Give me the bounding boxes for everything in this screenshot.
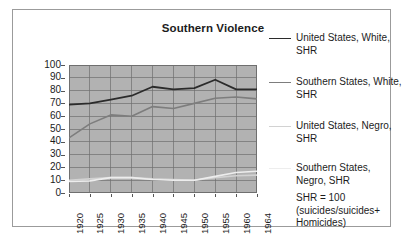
y-tick-label: 30 xyxy=(33,149,61,159)
y-tick-label: 50 xyxy=(33,124,61,134)
y-tick-mark xyxy=(61,116,65,117)
y-tick-mark xyxy=(61,91,65,92)
legend-note-line: (suicides/suicides+ xyxy=(296,205,405,218)
x-tick-label: 1935 xyxy=(136,213,147,234)
chart-title: Southern Violence xyxy=(143,22,283,34)
y-tick-label: 10 xyxy=(33,175,61,185)
y-tick-mark xyxy=(61,193,65,194)
x-tick-mark xyxy=(194,194,195,197)
series-lines xyxy=(69,65,257,193)
y-tick-label: 40 xyxy=(33,136,61,146)
x-tick-label: 1955 xyxy=(220,213,231,234)
y-tick-mark xyxy=(61,142,65,143)
y-axis: 0102030405060708090100 xyxy=(31,58,65,200)
x-tick-label: 1950 xyxy=(199,213,210,234)
y-tick-mark xyxy=(61,155,65,156)
legend-note-line: Homicides) xyxy=(296,217,405,230)
y-tick-label: 20 xyxy=(33,162,61,172)
legend-label: Southern States, White, SHR xyxy=(296,76,403,101)
x-tick-mark xyxy=(90,194,91,197)
y-tick-label: 90 xyxy=(33,72,61,82)
y-tick-mark xyxy=(61,65,65,66)
x-tick-label: 1945 xyxy=(178,213,189,234)
x-tick-label: 1960 xyxy=(241,213,252,234)
x-tick-mark xyxy=(173,194,174,197)
x-tick-label: 1940 xyxy=(157,213,168,234)
x-tick-mark xyxy=(153,194,154,197)
legend-label: Southern States, Negro, SHR xyxy=(296,162,403,187)
y-tick-label: 80 xyxy=(33,85,61,95)
y-tick-label: 0 xyxy=(33,188,61,198)
legend-note: SHR = 100(suicides/suicides+Homicides) xyxy=(296,192,405,230)
plot-area xyxy=(69,65,257,193)
x-tick-mark xyxy=(132,194,133,197)
x-tick-mark xyxy=(257,194,258,197)
y-tick-mark xyxy=(61,167,65,168)
y-tick-mark xyxy=(61,78,65,79)
x-tick-label: 1930 xyxy=(115,213,126,234)
y-tick-label: 60 xyxy=(33,111,61,121)
x-tick-mark xyxy=(215,194,216,197)
chart-frame: Southern Violence 0102030405060708090100… xyxy=(12,9,391,227)
legend-swatch xyxy=(269,126,291,127)
y-tick-mark xyxy=(61,103,65,104)
x-tick-label: 1925 xyxy=(94,213,105,234)
series-line-0 xyxy=(69,80,257,105)
legend-swatch xyxy=(269,168,291,169)
x-tick-mark xyxy=(111,194,112,197)
legend-note-line: SHR = 100 xyxy=(296,192,405,205)
y-tick-mark xyxy=(61,129,65,130)
y-tick-label: 70 xyxy=(33,98,61,108)
series-line-1 xyxy=(69,97,257,138)
y-tick-label: 100 xyxy=(33,60,61,70)
legend-label: United States, Negro, SHR xyxy=(296,120,403,145)
x-axis: 1920192519301935194019451950195519601964 xyxy=(69,194,257,240)
x-tick-label: 1920 xyxy=(74,213,85,234)
y-tick-mark xyxy=(61,180,65,181)
x-tick-label: 1964 xyxy=(262,213,273,234)
legend-swatch xyxy=(269,38,291,39)
x-tick-mark xyxy=(236,194,237,197)
legend-swatch xyxy=(269,82,291,83)
legend-label: United States, White, SHR xyxy=(296,32,403,57)
x-tick-mark xyxy=(69,194,70,197)
